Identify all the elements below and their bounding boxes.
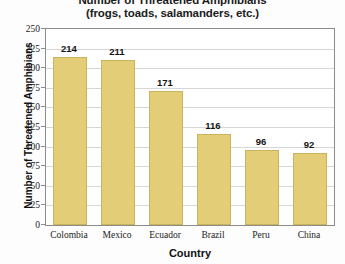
bar-value-label: 214 bbox=[52, 43, 86, 54]
bar bbox=[293, 153, 327, 225]
gridline bbox=[46, 68, 334, 69]
gridline bbox=[46, 49, 334, 50]
gridline bbox=[46, 147, 334, 148]
x-axis-category-label: Colombia bbox=[42, 230, 96, 240]
bar-value-label: 92 bbox=[292, 139, 326, 150]
x-axis-title: Country bbox=[45, 247, 335, 259]
x-axis-category-label: China bbox=[282, 230, 336, 240]
chart-subtitle: (frogs, toads, salamanders, etc.) bbox=[0, 7, 345, 19]
y-axis-tick-label: 0 bbox=[10, 220, 40, 230]
bar-value-label: 171 bbox=[148, 77, 182, 88]
chart-screenshot: Number of Threatened Amphibians (frogs, … bbox=[0, 0, 345, 264]
bar-value-label: 211 bbox=[100, 46, 134, 57]
y-axis-tick-label: 250 bbox=[10, 24, 40, 34]
gridline bbox=[46, 205, 334, 206]
plot-area bbox=[45, 28, 335, 226]
bar bbox=[245, 150, 279, 225]
bar bbox=[149, 91, 183, 225]
x-axis-category-label: Peru bbox=[234, 230, 288, 240]
bar-value-label: 116 bbox=[196, 120, 230, 131]
gridline bbox=[46, 166, 334, 167]
gridline bbox=[46, 88, 334, 89]
gridline bbox=[46, 127, 334, 128]
bar bbox=[197, 134, 231, 225]
x-axis-category-label: Brazil bbox=[186, 230, 240, 240]
bar bbox=[53, 57, 87, 225]
chart-title: Number of Threatened Amphibians bbox=[0, 0, 345, 6]
gridline bbox=[46, 186, 334, 187]
x-axis-category-label: Ecuador bbox=[138, 230, 192, 240]
gridline bbox=[46, 107, 334, 108]
y-axis-title: Number of Threatened Amphibians bbox=[23, 36, 34, 216]
bar-value-label: 96 bbox=[244, 136, 278, 147]
bar bbox=[101, 60, 135, 225]
x-axis-category-label: Mexico bbox=[90, 230, 144, 240]
